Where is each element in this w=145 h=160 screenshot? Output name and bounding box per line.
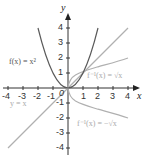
y-tick-label: -4 <box>56 143 64 152</box>
y-axis-label: y <box>61 3 65 13</box>
y-tick-label: 2 <box>58 53 63 62</box>
y-tick-label: -2 <box>56 113 64 122</box>
y-tick-label: 3 <box>58 38 63 47</box>
y-tick-label: 4 <box>58 23 63 32</box>
neg-sqrt-label: f⁻¹(x) = −√x <box>77 120 117 128</box>
x-tick-label: 3 <box>110 92 115 101</box>
x-axis-label: x <box>137 91 141 101</box>
sqrt-label: f⁻¹(x) = √x <box>87 72 122 80</box>
x-tick-label: -4 <box>2 92 10 101</box>
x-tick-label: 2 <box>95 92 100 101</box>
x-tick-label: -1 <box>47 92 55 101</box>
y-tick-label: -1 <box>56 98 64 107</box>
x-tick-label: 1 <box>81 92 86 101</box>
x-tick-label: 4 <box>125 92 130 101</box>
y-axis-arrow-icon <box>65 13 71 20</box>
identity-label: y = x <box>10 100 27 108</box>
y-tick-label: 1 <box>58 68 63 77</box>
x-tick-label: -2 <box>33 92 41 101</box>
function-graph <box>0 0 145 160</box>
y-tick-label: -3 <box>56 128 64 137</box>
parabola-label: f(x) = x² <box>9 58 36 66</box>
